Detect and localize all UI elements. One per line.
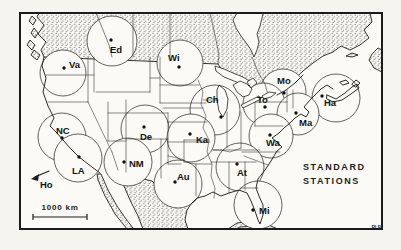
station-label-Va: Va bbox=[69, 59, 81, 70]
station-dot-At bbox=[235, 162, 238, 165]
station-dot-Ch bbox=[219, 115, 222, 118]
station-dot-De bbox=[142, 125, 145, 128]
station-label-Wa: Wa bbox=[266, 137, 281, 148]
figure-page: VaEdWiChMoToHaMaWaNCDeKaNMLAAuAtMi Ho 10… bbox=[0, 0, 401, 250]
station-dot-Ed bbox=[109, 38, 112, 41]
station-dot-Ka bbox=[188, 132, 191, 135]
station-label-To: To bbox=[257, 94, 268, 105]
station-label-LA: LA bbox=[72, 165, 85, 176]
station-label-Ma: Ma bbox=[299, 117, 313, 128]
scale-bar-label: 1000 km bbox=[41, 203, 78, 212]
station-label-Mi: Mi bbox=[259, 205, 270, 216]
credit-initials: RLB bbox=[372, 225, 382, 230]
station-label-Wi: Wi bbox=[168, 52, 180, 63]
station-dot-Va bbox=[62, 66, 65, 69]
title-line-1: STANDARD bbox=[303, 162, 366, 172]
station-circle-NM bbox=[104, 138, 152, 186]
station-dot-To bbox=[263, 105, 266, 108]
station-dot-Mo bbox=[282, 91, 285, 94]
station-label-Ho: Ho bbox=[40, 179, 53, 190]
station-label-Ha: Ha bbox=[324, 97, 337, 108]
station-circle-Wi bbox=[157, 40, 203, 86]
station-dot-Wi bbox=[177, 65, 180, 68]
station-label-At: At bbox=[237, 167, 248, 178]
station-dot-NC bbox=[60, 136, 63, 139]
station-dot-Mi bbox=[251, 208, 254, 211]
station-label-Mo: Mo bbox=[277, 75, 291, 86]
station-label-NM: NM bbox=[129, 158, 144, 169]
station-label-Ed: Ed bbox=[110, 44, 122, 55]
station-label-Ka: Ka bbox=[196, 134, 209, 145]
stations-map: VaEdWiChMoToHaMaWaNCDeKaNMLAAuAtMi Ho 10… bbox=[0, 0, 401, 250]
station-dot-Ma bbox=[294, 111, 297, 114]
title-line-2: STATIONS bbox=[303, 176, 360, 186]
station-circle-Va bbox=[40, 50, 86, 96]
station-label-De: De bbox=[140, 131, 152, 142]
station-label-Au: Au bbox=[177, 171, 190, 182]
station-label-Ch: Ch bbox=[206, 94, 219, 105]
station-dot-LA bbox=[77, 155, 80, 158]
station-dot-NM bbox=[122, 160, 125, 163]
station-label-NC: NC bbox=[56, 125, 70, 136]
